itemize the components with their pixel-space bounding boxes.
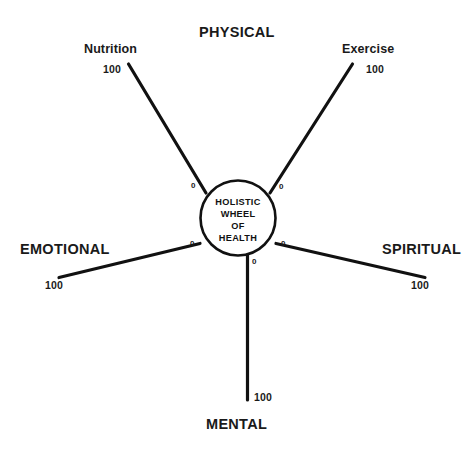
axis-label-spiritual: SPIRITUAL [382, 242, 461, 257]
scale-min-spiritual: 0 [281, 240, 285, 248]
hub-caption-line-4: HEALTH [203, 232, 273, 244]
hub-caption-line-2: WHEEL [203, 208, 273, 220]
axis-label-emotional: EMOTIONAL [20, 242, 110, 257]
scale-max-mental: 100 [254, 392, 272, 403]
hub-caption: HOLISTIC WHEEL OF HEALTH [203, 196, 273, 245]
axis-label-exercise: Exercise [342, 43, 394, 56]
axis-label-physical: PHYSICAL [199, 25, 275, 40]
scale-max-spiritual: 100 [411, 280, 429, 291]
scale-min-nutrition: 0 [191, 182, 195, 190]
scale-min-exercise: 0 [279, 183, 283, 191]
scale-min-emotional: 0 [190, 240, 194, 248]
spoke-line-exercise [270, 64, 353, 193]
axis-label-mental: MENTAL [206, 417, 267, 432]
holistic-wheel-diagram: HOLISTIC WHEEL OF HEALTH PHYSICAL Nutrit… [0, 0, 469, 455]
scale-max-nutrition: 100 [103, 64, 121, 75]
scale-max-emotional: 100 [45, 280, 63, 291]
axis-label-nutrition: Nutrition [84, 43, 137, 56]
hub-caption-line-3: OF [203, 220, 273, 232]
spoke-line-nutrition [129, 64, 207, 193]
hub-caption-line-1: HOLISTIC [203, 196, 273, 208]
scale-min-mental: 0 [252, 258, 256, 266]
scale-max-exercise: 100 [366, 64, 384, 75]
